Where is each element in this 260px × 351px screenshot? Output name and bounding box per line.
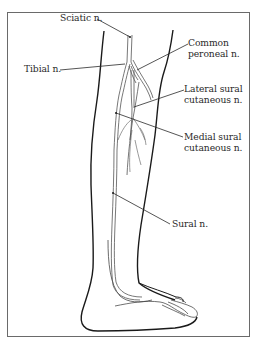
- sciatic-nerve: [127, 35, 132, 62]
- medial-sural-nerve: [130, 70, 134, 140]
- label-medial-sural-line2: cutaneous n.: [184, 143, 242, 154]
- leader-lines: [60, 19, 188, 224]
- leg-outline-front: [138, 30, 175, 300]
- lateral-sural-nerve: [127, 82, 139, 175]
- label-sciatic-nerve: Sciatic n.: [60, 13, 102, 24]
- tibial-nerve: [114, 62, 130, 150]
- label-common-peroneal-line1: Common: [188, 38, 229, 49]
- label-tibial-nerve: Tibial n.: [24, 64, 61, 75]
- sural-nerve: [111, 150, 142, 300]
- leader-tibial: [60, 64, 125, 70]
- label-lateral-sural-line1: Lateral sural: [184, 84, 243, 95]
- foot-arch: [115, 301, 184, 314]
- label-lateral-sural-line2: cutaneous n.: [184, 95, 242, 106]
- foot-dorsum: [139, 283, 183, 302]
- toes: [162, 298, 197, 317]
- label-common-peroneal-line2: peroneal n.: [188, 49, 240, 60]
- label-medial-sural-line1: Medial sural: [184, 132, 241, 143]
- label-sural-nerve: Sural n.: [172, 219, 208, 230]
- communicating-branch: [129, 66, 138, 83]
- leg-outline-back: [81, 31, 197, 331]
- nerves: [111, 35, 153, 300]
- leader-common-peroneal: [137, 44, 188, 70]
